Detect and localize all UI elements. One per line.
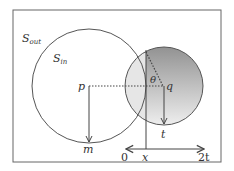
label-axis-x: x	[142, 151, 149, 164]
label-s-out: Sout	[22, 32, 41, 46]
label-theta: θ	[150, 74, 156, 85]
label-q: q	[166, 80, 173, 93]
label-axis-end: 2t	[198, 151, 210, 164]
label-s-in: Sin	[53, 52, 68, 66]
label-axis-start: 0	[121, 151, 128, 164]
diagram-canvas: Sout Sin p q θ t m 0 x 2t	[0, 0, 234, 171]
label-t: t	[161, 128, 166, 141]
shaded-segment	[146, 40, 216, 130]
label-p: p	[78, 80, 85, 93]
label-m: m	[83, 143, 93, 156]
